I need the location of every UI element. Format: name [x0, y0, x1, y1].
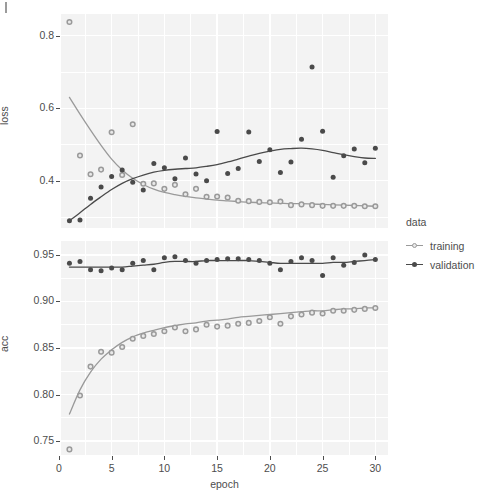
- corner-artifact-mark: [5, 2, 7, 13]
- legend-key-point: [412, 243, 417, 248]
- data-point-training-acc: [299, 312, 304, 317]
- data-point-training-acc: [373, 306, 378, 311]
- data-point-validation-acc: [120, 267, 125, 272]
- data-point-training-loss: [88, 172, 93, 177]
- data-point-training-loss: [162, 187, 167, 192]
- data-point-training-acc: [204, 322, 209, 327]
- data-point-training-acc: [152, 332, 157, 337]
- data-point-training-acc: [120, 345, 125, 350]
- data-point-validation-acc: [288, 259, 293, 264]
- legend-label-training: training: [430, 240, 464, 252]
- x-axis-label: epoch: [61, 478, 388, 490]
- y-tick-label: 0.80: [14, 389, 54, 400]
- data-point-training-acc: [268, 315, 273, 320]
- data-point-training-loss: [99, 167, 104, 172]
- smooth-line-validation-acc: [69, 260, 375, 268]
- data-point-validation-acc: [151, 267, 156, 272]
- x-tick-label: 25: [308, 462, 338, 475]
- smooth-line-validation-loss: [69, 148, 375, 221]
- data-point-validation-acc: [183, 258, 188, 263]
- data-point-validation-loss: [120, 167, 125, 172]
- data-point-validation-loss: [109, 174, 114, 179]
- data-point-validation-acc: [310, 258, 315, 263]
- data-point-validation-acc: [267, 261, 272, 266]
- data-point-validation-loss: [130, 180, 135, 185]
- data-point-training-acc: [109, 350, 114, 355]
- data-point-training-loss: [278, 199, 283, 204]
- data-point-validation-loss: [246, 129, 251, 134]
- data-point-training-acc: [225, 323, 230, 328]
- data-point-training-loss: [120, 173, 125, 178]
- y-tick-mark: [56, 395, 60, 396]
- x-tick-label: 15: [202, 462, 232, 475]
- y-tick-mark: [56, 181, 60, 182]
- data-point-training-loss: [152, 181, 157, 186]
- data-point-training-acc: [236, 322, 241, 327]
- data-point-validation-acc: [194, 261, 199, 266]
- data-point-validation-acc: [130, 261, 135, 266]
- data-point-validation-loss: [278, 170, 283, 175]
- y-tick-label: 0.75: [14, 435, 54, 446]
- data-point-training-loss: [109, 130, 114, 135]
- data-point-training-acc: [341, 308, 346, 313]
- panel-loss: [61, 14, 388, 228]
- data-point-validation-acc: [257, 258, 262, 263]
- data-point-validation-acc: [215, 257, 220, 262]
- data-point-validation-loss: [352, 146, 357, 151]
- data-point-training-loss: [331, 204, 336, 209]
- y-tick-mark: [56, 441, 60, 442]
- data-point-training-acc: [162, 329, 167, 334]
- data-point-training-loss: [130, 122, 135, 127]
- data-point-training-loss: [268, 200, 273, 205]
- data-point-validation-acc: [67, 261, 72, 266]
- data-point-validation-acc: [362, 252, 367, 257]
- data-point-validation-loss: [236, 166, 241, 171]
- data-point-training-acc: [173, 325, 178, 330]
- data-point-validation-acc: [352, 260, 357, 265]
- data-point-training-loss: [299, 202, 304, 207]
- data-point-training-acc: [257, 319, 262, 324]
- data-point-training-acc: [183, 329, 188, 334]
- x-tick-mark: [217, 456, 218, 460]
- data-point-training-acc: [246, 321, 251, 326]
- y-tick-mark: [56, 255, 60, 256]
- data-point-validation-acc: [141, 258, 146, 263]
- data-point-validation-loss: [162, 165, 167, 170]
- data-point-validation-loss: [172, 176, 177, 181]
- data-point-validation-loss: [204, 178, 209, 183]
- chart-canvas: loss acc 0.40.60.80.750.800.850.900.95 0…: [0, 0, 492, 504]
- data-point-validation-loss: [331, 175, 336, 180]
- data-point-validation-acc: [77, 259, 82, 264]
- data-point-training-loss: [362, 204, 367, 209]
- y-tick-mark: [56, 108, 60, 109]
- data-point-validation-acc: [341, 263, 346, 268]
- y-tick-label: 0.8: [14, 30, 54, 41]
- y-axis-label-loss: loss: [0, 112, 11, 125]
- x-tick-mark: [270, 456, 271, 460]
- data-point-validation-loss: [225, 171, 230, 176]
- data-point-validation-acc: [373, 257, 378, 262]
- data-point-training-loss: [141, 181, 146, 186]
- x-tick-mark: [112, 456, 113, 460]
- data-point-training-loss: [352, 204, 357, 209]
- data-point-training-loss: [246, 199, 251, 204]
- data-point-validation-acc: [299, 255, 304, 260]
- legend-title: data: [405, 216, 489, 228]
- x-tick-label: 30: [360, 462, 390, 475]
- legend-item-training[interactable]: training: [405, 236, 489, 255]
- data-point-validation-acc: [320, 273, 325, 278]
- legend: data training validation: [405, 216, 489, 274]
- plot-area-acc: [61, 241, 388, 455]
- data-point-training-acc: [215, 324, 220, 329]
- data-point-validation-acc: [162, 255, 167, 260]
- data-point-training-acc: [331, 308, 336, 313]
- data-point-validation-loss: [77, 218, 82, 223]
- data-point-training-loss: [320, 204, 325, 209]
- data-point-validation-acc: [99, 268, 104, 273]
- data-point-validation-loss: [362, 160, 367, 165]
- data-point-validation-acc: [225, 256, 230, 261]
- data-point-validation-loss: [299, 137, 304, 142]
- legend-item-validation[interactable]: validation: [405, 255, 489, 274]
- data-point-validation-loss: [88, 196, 93, 201]
- data-point-training-loss: [341, 204, 346, 209]
